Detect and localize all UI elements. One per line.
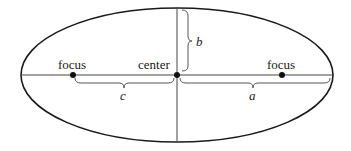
brace-c	[75, 78, 174, 88]
left-focus-dot	[70, 72, 76, 78]
ellipse-diagram: focus center focus b c a	[0, 0, 351, 151]
right-focus-dot	[279, 72, 285, 78]
brace-b	[182, 10, 192, 71]
center-label: center	[138, 57, 170, 72]
semi-major-label: a	[249, 88, 256, 103]
brace-a	[180, 78, 330, 88]
center-dot	[174, 72, 180, 78]
semi-minor-label: b	[196, 34, 203, 49]
left-focus-label: focus	[58, 57, 86, 72]
focal-distance-label: c	[120, 88, 126, 103]
right-focus-label: focus	[267, 57, 295, 72]
